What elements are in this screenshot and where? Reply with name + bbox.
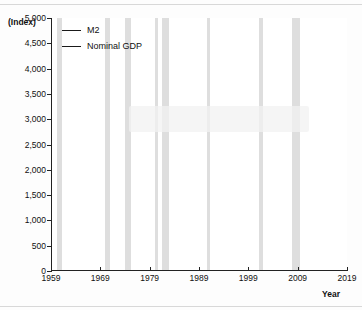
chart-figure: (Index) Year 05001,0001,5002,0002,5003,0… [0,0,362,310]
recession-band [162,18,169,271]
x-axis-tick-label: 1999 [228,274,268,283]
recession-band [292,18,300,271]
y-axis-tick [47,271,52,272]
recession-band [259,18,262,271]
recession-band [155,18,158,271]
x-axis-tick-label: 1959 [31,274,71,283]
x-axis-tick-label: 2009 [278,274,318,283]
y-axis-tick-label: 4,000 [0,65,46,74]
legend-swatch-nominal-gdp [62,46,81,47]
scan-watermark [129,106,309,132]
legend-label-nominal-gdp: Nominal GDP [87,42,142,51]
x-axis-tick-label: 1979 [130,274,170,283]
chart-legend: M2 Nominal GDP [62,24,142,56]
y-axis-tick-labels: 05001,0001,5002,0002,5003,0003,5004,0004… [0,18,46,271]
legend-item-nominal-gdp: Nominal GDP [62,40,142,53]
x-axis-tick-labels: 1959196919791989199920092019 [0,274,362,288]
legend-label-m2: M2 [87,26,100,35]
x-axis-tick-label: 2019 [327,274,362,283]
y-axis-tick-label: 3,000 [0,115,46,124]
x-axis-line [51,270,347,271]
page-rule-bottom [0,306,362,307]
x-axis-tick-label: 1969 [80,274,120,283]
x-axis-tick-label: 1989 [179,274,219,283]
y-axis-tick-label: 3,500 [0,90,46,99]
y-axis-tick-label: 5,000 [0,14,46,23]
y-axis-tick-label: 2,000 [0,166,46,175]
y-axis-tick-label: 1,000 [0,216,46,225]
y-axis-tick-label: 1,500 [0,191,46,200]
legend-item-m2: M2 [62,24,142,37]
x-axis-tick [347,267,348,271]
y-axis-tick-label: 500 [0,242,46,251]
recession-band [207,18,210,271]
legend-swatch-m2 [62,30,81,31]
y-axis-line [51,18,52,271]
x-axis-caption: Year [322,290,340,299]
y-axis-tick-label: 4,500 [0,39,46,48]
y-axis-tick-label: 2,500 [0,141,46,150]
page-rule-top [0,4,362,5]
